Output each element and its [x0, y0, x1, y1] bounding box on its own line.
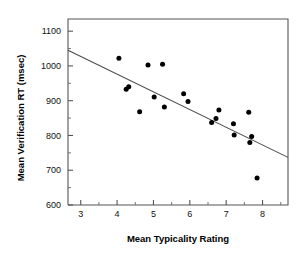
data-point [249, 134, 254, 139]
data-point [186, 99, 191, 104]
x-tick-label: 8 [260, 209, 265, 219]
y-tick-label: 1100 [42, 26, 61, 36]
data-point [214, 116, 219, 121]
y-tick-labels: 60070080090010001100 [41, 26, 61, 210]
plot-canvas: 345678 60070080090010001100 Mean Typical… [0, 0, 306, 255]
data-point [247, 140, 252, 145]
data-points [116, 56, 259, 181]
x-tick-label: 7 [224, 209, 229, 219]
data-point [146, 62, 151, 67]
y-tick-label: 800 [46, 131, 61, 141]
regression-line [68, 50, 288, 157]
data-point [160, 62, 165, 67]
x-tick-label: 3 [78, 209, 83, 219]
data-point [162, 104, 167, 109]
data-point [181, 91, 186, 96]
x-tick-labels: 345678 [78, 209, 265, 219]
data-point [246, 110, 251, 115]
data-point [231, 121, 236, 126]
scatter-plot-figure: 345678 60070080090010001100 Mean Typical… [0, 0, 306, 255]
data-point [232, 133, 237, 138]
data-point [216, 108, 221, 113]
data-point [152, 94, 157, 99]
x-tick-label: 5 [151, 209, 156, 219]
data-point [255, 175, 260, 180]
y-tick-label: 700 [46, 165, 61, 175]
x-tick-label: 6 [187, 209, 192, 219]
axis-ticks [68, 31, 281, 205]
data-point [209, 120, 214, 125]
y-tick-label: 600 [46, 200, 61, 210]
data-point [137, 109, 142, 114]
trend-line [68, 50, 288, 157]
data-point [116, 56, 121, 61]
x-tick-label: 4 [115, 209, 120, 219]
y-tick-label: 900 [46, 96, 61, 106]
y-axis-title: Mean Verification RT (msec) [15, 55, 26, 182]
y-tick-label: 1000 [41, 61, 61, 71]
data-point [126, 84, 131, 89]
x-axis-title: Mean Typicality Rating [127, 233, 229, 244]
